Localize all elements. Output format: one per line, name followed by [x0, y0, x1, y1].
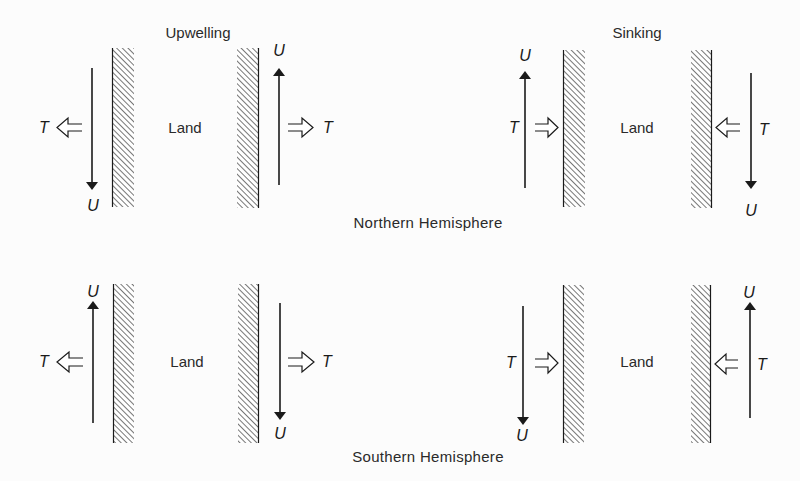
- land-label: Land: [170, 353, 203, 370]
- current-label: U: [87, 283, 99, 300]
- current-label: U: [274, 425, 286, 442]
- transport-arrow-left-icon: [57, 352, 83, 372]
- transport-arrow-left-icon: [715, 354, 738, 374]
- caption-northern-hemisphere: Northern Hemisphere: [353, 214, 502, 231]
- transport-label: T: [506, 354, 517, 371]
- coast-wall: [691, 285, 711, 443]
- transport-arrow-right-icon: [288, 118, 313, 137]
- transport-label: T: [757, 356, 768, 373]
- coast-wall: [563, 50, 585, 207]
- land-label: Land: [620, 119, 653, 136]
- current-label: U: [519, 47, 531, 64]
- coast-wall: [563, 285, 584, 443]
- transport-arrow-left-icon: [716, 118, 740, 137]
- transport-arrow-left-icon: [57, 118, 82, 137]
- transport-arrow-right-icon: [535, 118, 558, 137]
- current-label: U: [87, 197, 99, 214]
- title-sinking: Sinking: [612, 24, 661, 41]
- coast-wall: [112, 48, 134, 207]
- coast-wall: [113, 284, 134, 443]
- caption-southern-hemisphere: Southern Hemisphere: [352, 448, 504, 465]
- land-label: Land: [620, 353, 653, 370]
- northern-sinking-panel: U T Land T U: [509, 47, 770, 219]
- current-label: U: [745, 202, 757, 219]
- southern-upwelling-panel: U T Land U T: [39, 283, 333, 443]
- transport-label: T: [39, 353, 50, 370]
- transport-label: T: [39, 119, 50, 136]
- current-label: U: [743, 284, 755, 301]
- southern-sinking-panel: U T Land T U: [506, 284, 768, 444]
- coast-wall: [238, 284, 259, 443]
- transport-label: T: [323, 119, 334, 136]
- transport-arrow-right-icon: [535, 353, 558, 373]
- title-upwelling: Upwelling: [165, 24, 230, 41]
- current-label: U: [516, 427, 528, 444]
- transport-label: T: [509, 119, 520, 136]
- northern-upwelling-panel: U T Land U T: [39, 42, 334, 214]
- coast-wall: [691, 50, 712, 208]
- current-label: U: [273, 42, 285, 59]
- coast-wall: [237, 48, 259, 208]
- transport-label: T: [322, 353, 333, 370]
- land-label: Land: [168, 119, 201, 136]
- upwelling-sinking-diagram: Upwelling Sinking U T Land U T U T: [0, 0, 800, 481]
- transport-label: T: [759, 121, 770, 138]
- transport-arrow-right-icon: [288, 352, 314, 372]
